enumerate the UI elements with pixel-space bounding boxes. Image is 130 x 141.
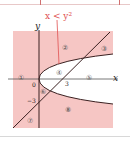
x-axis-label: x — [113, 73, 118, 83]
y-axis-label: y — [35, 21, 40, 31]
region-2-label: ② — [62, 44, 68, 52]
region-3-label: ③ — [101, 45, 107, 53]
region-8-label: ⑧ — [65, 106, 71, 114]
x-tick-3: 3 — [65, 80, 69, 87]
graph — [0, 0, 130, 141]
region-7-label: ⑦ — [27, 117, 33, 125]
region-4-label: ④ — [56, 69, 62, 77]
origin-label: 0 — [32, 81, 36, 88]
annotation-label: x < y² — [45, 11, 72, 21]
region-6-label: ⑥ — [40, 88, 46, 96]
region-5-label: ⑤ — [86, 74, 92, 82]
region-1-label: ① — [18, 74, 24, 82]
y-tick-minus3: −3 — [27, 97, 36, 104]
